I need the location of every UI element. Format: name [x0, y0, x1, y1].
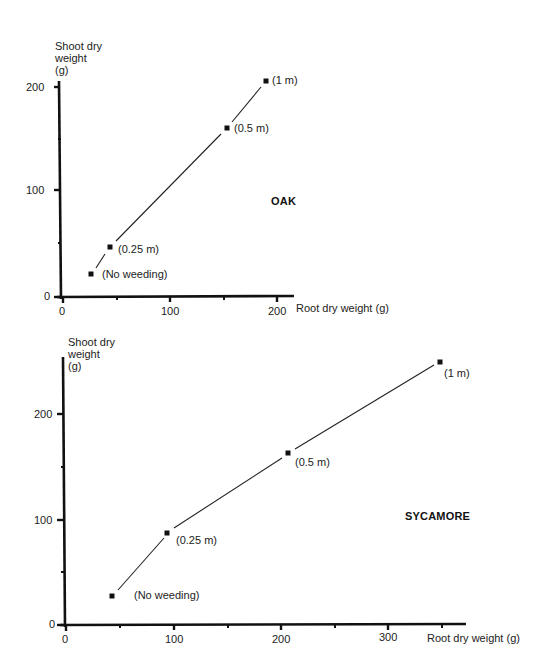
sycamore-x-axis-label: Root dry weight (g): [427, 632, 520, 645]
sycamore-point-label: (1 m): [444, 367, 470, 380]
sycamore-xtick: 200: [272, 633, 290, 645]
sycamore-point-no-weeding: [110, 594, 115, 599]
sycamore-point-label: (0.5 m): [295, 456, 330, 469]
sycamore-chart: Shoot dry weight (g) 200 100 0 0 100: [0, 0, 534, 664]
sycamore-ytick: 200: [34, 408, 52, 420]
sycamore-point-0-25m: [165, 531, 170, 536]
sycamore-point-label: (0.25 m): [176, 534, 217, 547]
sycamore-xtick: 300: [379, 631, 397, 643]
sycamore-xtick: 0: [62, 633, 68, 645]
sycamore-plot-area: [0, 0, 534, 664]
sycamore-ytick: 100: [34, 514, 52, 526]
sycamore-point-label: (No weeding): [134, 589, 199, 602]
sycamore-ytick: 0: [49, 618, 55, 630]
sycamore-title: SYCAMORE: [405, 510, 470, 522]
sycamore-point-1m: [438, 360, 443, 365]
sycamore-y-axis: [63, 357, 65, 627]
sycamore-xtick: 100: [165, 633, 183, 645]
sycamore-point-0-5m: [286, 451, 291, 456]
